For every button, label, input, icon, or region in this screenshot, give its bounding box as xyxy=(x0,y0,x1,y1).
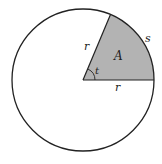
label-radius-lower: r xyxy=(115,82,120,93)
label-area: A xyxy=(114,50,123,62)
label-arc: s xyxy=(145,33,151,44)
label-angle: t xyxy=(95,66,99,76)
sector-diagram: r A s t r xyxy=(0,0,162,164)
circle-figure xyxy=(0,0,162,164)
sector-shaded xyxy=(83,15,154,80)
label-radius-upper: r xyxy=(84,41,89,52)
